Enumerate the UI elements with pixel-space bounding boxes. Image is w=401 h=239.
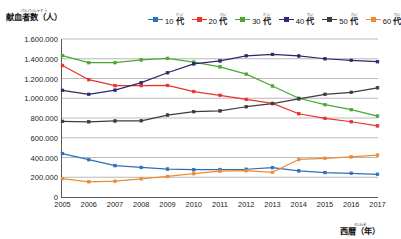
data-point [61, 54, 64, 57]
y-axis-title-ruby-group: けんけつしゃすう 献血者数（人） [6, 9, 62, 22]
x-axis-tick-label: 2009 [159, 200, 175, 209]
plot-svg [62, 39, 378, 197]
data-point [350, 108, 353, 111]
data-point [271, 53, 274, 56]
legend-item-60代[interactable]: 60 だい代 [366, 13, 401, 26]
data-point [166, 175, 169, 178]
data-point [166, 114, 169, 117]
legend-swatch-icon [148, 16, 163, 23]
data-point [297, 112, 300, 115]
data-point [166, 168, 169, 171]
legend-label: 40 だい代 [296, 13, 315, 26]
x-axis-tick-label: 2007 [107, 200, 123, 209]
data-point [271, 166, 274, 169]
data-point [140, 84, 143, 87]
data-point [324, 57, 327, 60]
series-line-30代 [63, 56, 378, 116]
data-point [350, 172, 353, 175]
data-point [376, 115, 379, 118]
x-axis-tick-label: 2010 [186, 200, 202, 209]
data-point [192, 168, 195, 171]
x-axis-title-text: 西暦（年） [340, 227, 380, 236]
data-point [192, 172, 195, 175]
data-point [166, 57, 169, 60]
chart-legend: 10 だい代20 だい代30 だい代40 だい代50 だい代60 だい代 [148, 13, 401, 26]
x-axis-tick-label: 2017 [369, 200, 385, 209]
data-point [114, 120, 117, 123]
data-point [87, 158, 90, 161]
data-point [324, 157, 327, 160]
x-axis-title: せいれき 西暦（年） [340, 220, 380, 236]
legend-item-10代[interactable]: 10 だい代 [148, 13, 184, 26]
data-point [297, 170, 300, 173]
data-point [61, 152, 64, 155]
data-point [192, 110, 195, 113]
data-point [61, 89, 64, 92]
data-point [297, 158, 300, 161]
data-point [140, 166, 143, 169]
x-axis-tick-label: 2012 [238, 200, 254, 209]
data-point [166, 71, 169, 74]
data-point [245, 98, 248, 101]
legend-label: 20 だい代 [209, 13, 228, 26]
data-point [376, 60, 379, 63]
data-point [245, 73, 248, 76]
x-axis-tick-label: 2015 [317, 200, 333, 209]
data-point [140, 178, 143, 181]
data-point [87, 93, 90, 96]
y-axis-title-text: 献血者数（人） [6, 13, 62, 22]
y-axis-tick-label: 800.000 [31, 114, 58, 123]
data-point [219, 110, 222, 113]
data-point [376, 86, 379, 89]
data-point [114, 84, 117, 87]
data-point [219, 94, 222, 97]
data-point [324, 117, 327, 120]
x-axis-title-ruby-group: せいれき 西暦（年） [340, 223, 380, 236]
data-point [61, 177, 64, 180]
x-axis-tick-label: 2005 [54, 200, 70, 209]
data-point [114, 164, 117, 167]
data-point [376, 125, 379, 128]
y-axis-tick-label: 1.200.000 [24, 74, 58, 83]
data-point [271, 85, 274, 88]
legend-swatch-icon [322, 16, 337, 23]
data-point [271, 102, 274, 105]
x-axis-tick-label: 2016 [343, 200, 359, 209]
data-point [376, 173, 379, 176]
data-point [87, 120, 90, 123]
y-axis-tick-label: 1.000.000 [24, 94, 58, 103]
data-point [219, 60, 222, 63]
data-point [140, 119, 143, 122]
legend-item-20代[interactable]: 20 だい代 [192, 13, 228, 26]
series-line-50代 [63, 88, 378, 122]
legend-swatch-icon [235, 16, 250, 23]
data-point [245, 105, 248, 108]
data-point [271, 171, 274, 174]
data-point [61, 64, 64, 67]
y-axis-tick-label: 1.400.000 [24, 54, 58, 63]
data-point [219, 170, 222, 173]
legend-item-40代[interactable]: 40 だい代 [279, 13, 315, 26]
y-axis-tick-label: 600.000 [31, 133, 58, 142]
x-axis-tick-label: 2006 [81, 200, 97, 209]
legend-label: 60 だい代 [383, 13, 401, 26]
data-point [114, 89, 117, 92]
legend-item-50代[interactable]: 50 だい代 [322, 13, 358, 26]
plot-area: 0200.000400.000600.000800.0001.000.0001.… [61, 39, 378, 198]
data-point [324, 171, 327, 174]
data-point [245, 54, 248, 57]
data-point [114, 61, 117, 64]
data-point [350, 59, 353, 62]
y-axis-title: けんけつしゃすう 献血者数（人） [6, 6, 62, 22]
data-point [140, 81, 143, 84]
y-axis-tick-label: 400.000 [31, 153, 58, 162]
data-point [140, 59, 143, 62]
legend-label: 10 だい代 [165, 13, 184, 26]
legend-item-30代[interactable]: 30 だい代 [235, 13, 271, 26]
data-point [324, 93, 327, 96]
data-point [297, 98, 300, 101]
y-axis-tick-label: 1.600.000 [24, 35, 58, 44]
data-point [324, 103, 327, 106]
data-point [350, 156, 353, 159]
